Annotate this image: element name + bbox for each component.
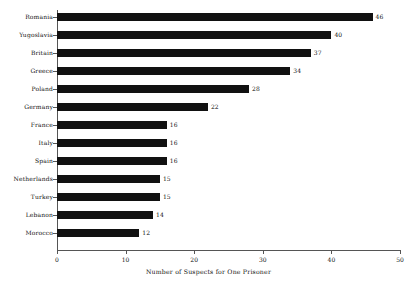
bar-row: 37 (57, 44, 400, 62)
x-axis-tick-label: 40 (328, 256, 336, 263)
y-axis-tick (53, 71, 57, 72)
category-label: Poland (31, 80, 53, 98)
bar-value-label: 46 (376, 8, 384, 26)
bar-row: 22 (57, 98, 400, 116)
bar-value-label: 40 (334, 26, 342, 44)
x-axis-spine (57, 250, 401, 251)
y-axis-tick (53, 179, 57, 180)
category-label: France (31, 116, 53, 134)
x-axis-tick (400, 250, 401, 254)
bar-value-label: 15 (163, 188, 171, 206)
category-label: Greece (30, 62, 53, 80)
bar (57, 49, 311, 57)
category-label: Morocco (25, 224, 53, 242)
bar-value-label: 34 (293, 62, 301, 80)
y-axis-tick (53, 35, 57, 36)
bar (57, 211, 153, 219)
y-axis-tick (53, 17, 57, 18)
x-axis-tick (331, 250, 332, 254)
bar-row: 16 (57, 134, 400, 152)
x-axis-tick-label: 20 (190, 256, 198, 263)
bar-row: 16 (57, 152, 400, 170)
bar-value-label: 15 (163, 170, 171, 188)
y-axis-tick (53, 125, 57, 126)
x-axis-tick (126, 250, 127, 254)
bar (57, 85, 249, 93)
bar-row: 12 (57, 224, 400, 242)
y-axis-tick (53, 197, 57, 198)
bar (57, 157, 167, 165)
x-axis-title: Number of Suspects for One Prisoner (0, 268, 417, 275)
category-label: Turkey (31, 188, 53, 206)
category-label: Netherlands (14, 170, 53, 188)
x-axis-tick-label: 10 (122, 256, 130, 263)
bar (57, 175, 160, 183)
category-label: Lebanon (26, 206, 53, 224)
bar-row: 14 (57, 206, 400, 224)
x-axis-tick-label: 0 (55, 256, 59, 263)
bar-value-label: 12 (142, 224, 150, 242)
plot-area: 46403734282216161615151412 (57, 8, 400, 250)
category-label: Italy (39, 134, 53, 152)
x-axis-tick (194, 250, 195, 254)
bar-row: 28 (57, 80, 400, 98)
bar (57, 121, 167, 129)
bar (57, 103, 208, 111)
bar-row: 15 (57, 188, 400, 206)
y-axis-tick (53, 233, 57, 234)
bar (57, 13, 373, 21)
bar (57, 229, 139, 237)
bar (57, 31, 331, 39)
y-axis-tick (53, 143, 57, 144)
y-axis-tick (53, 215, 57, 216)
x-axis-tick (263, 250, 264, 254)
bar-value-label: 22 (211, 98, 219, 116)
x-axis-tick-label: 30 (259, 256, 267, 263)
bar-value-label: 28 (252, 80, 260, 98)
bar (57, 139, 167, 147)
bar-row: 34 (57, 62, 400, 80)
bar (57, 67, 290, 75)
category-label: Yugoslavia (19, 26, 53, 44)
x-axis-tick (57, 250, 58, 254)
category-label: Germany (24, 98, 53, 116)
bar (57, 193, 160, 201)
category-label: Britain (31, 44, 53, 62)
bar-value-label: 16 (170, 134, 178, 152)
category-label: Spain (35, 152, 53, 170)
bar-row: 15 (57, 170, 400, 188)
x-axis-tick-label: 50 (396, 256, 404, 263)
bar-chart: 46403734282216161615151412 RomaniaYugosl… (0, 0, 417, 289)
bar-value-label: 14 (156, 206, 164, 224)
category-label: Romania (25, 8, 53, 26)
bar-row: 40 (57, 26, 400, 44)
y-axis-tick (53, 53, 57, 54)
y-axis-tick (53, 89, 57, 90)
bar-value-label: 16 (170, 116, 178, 134)
bar-row: 46 (57, 8, 400, 26)
bar-value-label: 16 (170, 152, 178, 170)
y-axis-tick (53, 161, 57, 162)
y-axis-tick (53, 107, 57, 108)
bar-value-label: 37 (314, 44, 322, 62)
bar-row: 16 (57, 116, 400, 134)
